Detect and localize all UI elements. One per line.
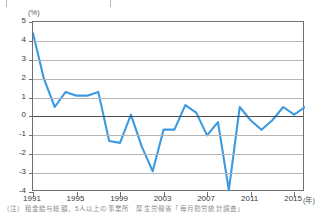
chart-footnote: （注）租金給与総額、5人以上の事業所 厚生労働省「毎月勤労統計調査」 (3, 203, 244, 213)
y-axis-label: 3 (8, 54, 26, 63)
y-axis-label: -3 (8, 167, 26, 176)
y-axis-tick (29, 60, 33, 61)
y-axis-label: -2 (8, 148, 26, 157)
y-axis-tick (29, 135, 33, 136)
x-axis-label: 2007 (189, 194, 223, 203)
y-axis-tick (29, 116, 33, 117)
y-axis-unit-label: (%) (28, 8, 40, 17)
y-axis-tick (29, 22, 33, 23)
gridline (33, 60, 303, 61)
line-chart: (%) (年) 543210-1-2-3-4199119951999200320… (0, 0, 329, 213)
gridline (33, 41, 303, 42)
gridline (33, 98, 303, 99)
y-axis-tick (29, 154, 33, 155)
y-axis-label: 1 (8, 92, 26, 101)
plot-area (32, 21, 304, 191)
y-axis-label: 4 (8, 35, 26, 44)
y-axis-tick (29, 98, 33, 99)
x-axis-label: 2015 (276, 194, 310, 203)
y-axis-label: 0 (8, 110, 26, 119)
y-axis-label: 5 (8, 16, 26, 25)
gridline (33, 135, 303, 136)
x-axis-label: 1999 (102, 194, 136, 203)
series-line (33, 22, 305, 192)
gridline (33, 79, 303, 80)
x-axis-label: 1991 (15, 194, 49, 203)
gridline (33, 154, 303, 155)
y-axis-tick (29, 79, 33, 80)
x-axis-label: 2011 (233, 194, 267, 203)
y-axis-tick (29, 173, 33, 174)
y-axis-label: -1 (8, 129, 26, 138)
gridline (33, 173, 303, 174)
x-axis-label: 1995 (59, 194, 93, 203)
y-axis-tick (29, 41, 33, 42)
x-axis-label: 2003 (146, 194, 180, 203)
zero-line (33, 116, 303, 117)
y-axis-label: 2 (8, 73, 26, 82)
